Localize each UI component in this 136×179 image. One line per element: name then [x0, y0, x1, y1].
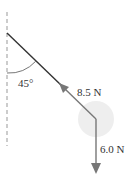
tension-label: 8.5 N: [77, 87, 101, 98]
angle-arc: [7, 61, 36, 73]
weight-label: 6.0 N: [100, 144, 124, 155]
rope: [7, 33, 62, 86]
angle-label: 45°: [18, 78, 33, 89]
weight-arrowhead-icon: [91, 163, 101, 174]
